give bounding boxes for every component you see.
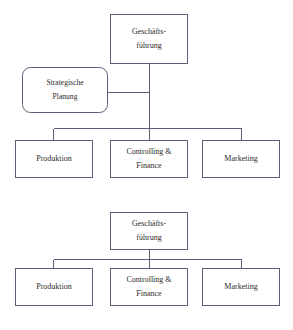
node-label-line1: Marketing <box>224 154 257 163</box>
node-geschaeftsfuehrung-1[interactable]: Geschäfts- führung <box>111 15 188 64</box>
node-marketing-2[interactable]: Marketing <box>203 269 280 306</box>
node-produktion-1[interactable]: Produktion <box>16 141 93 178</box>
node-strategische-planung[interactable]: Strategische Planung <box>23 68 108 113</box>
node-box <box>111 15 188 64</box>
chart-line-organization: Geschäfts- führung Produktion Controllin… <box>16 213 280 306</box>
chart2-connectors <box>54 250 242 268</box>
node-marketing-1[interactable]: Marketing <box>203 141 280 178</box>
node-label-line1: Controlling & <box>126 275 172 284</box>
node-geschaeftsfuehrung-2[interactable]: Geschäfts- führung <box>111 213 188 250</box>
node-label-line1: Strategische <box>46 78 84 87</box>
node-label-line1: Geschäfts- <box>132 219 167 228</box>
node-label-line1: Marketing <box>224 282 257 291</box>
node-label-line2: führung <box>136 41 161 50</box>
node-label-line1: Produktion <box>36 282 72 291</box>
node-label-line2: Finance <box>136 161 162 170</box>
chart-with-staff-unit: Geschäfts- führung Strategische Planung … <box>16 15 280 178</box>
node-produktion-2[interactable]: Produktion <box>16 269 93 306</box>
node-box-rounded <box>23 68 108 113</box>
node-label-line1: Produktion <box>36 154 72 163</box>
node-label-line2: führung <box>136 233 161 242</box>
org-chart-canvas: Geschäfts- führung Strategische Planung … <box>0 0 293 330</box>
node-label-line1: Controlling & <box>126 147 172 156</box>
node-label-line2: Finance <box>136 289 162 298</box>
node-label-line2: Planung <box>53 92 78 101</box>
org-chart-diagram: Geschäfts- führung Strategische Planung … <box>0 0 293 330</box>
node-controlling-finance-2[interactable]: Controlling & Finance <box>111 269 188 306</box>
node-label-line1: Geschäfts- <box>132 27 167 36</box>
node-controlling-finance-1[interactable]: Controlling & Finance <box>111 141 188 178</box>
